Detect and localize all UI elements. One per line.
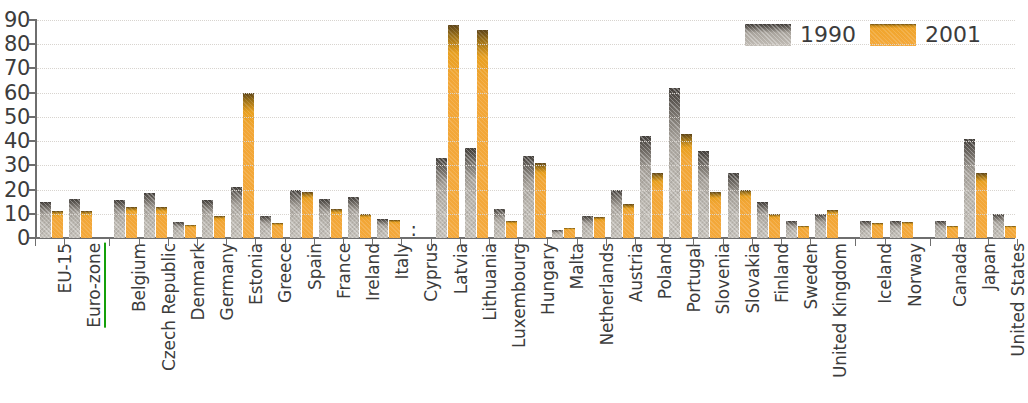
bar-2001[interactable] [360, 214, 371, 238]
bar-2001[interactable] [389, 220, 400, 238]
bar-group [890, 20, 915, 238]
y-tick-label: 20 [4, 179, 30, 200]
bar-1990[interactable] [173, 222, 184, 238]
gridline [37, 93, 1015, 94]
bar-2001[interactable] [156, 207, 167, 238]
x-tick-mark [781, 239, 782, 246]
x-category-label: Slovakia [745, 243, 762, 314]
x-tick-mark [752, 239, 753, 246]
chart-legend: 1990 2001 [745, 24, 981, 46]
x-category-label: Italy [394, 243, 411, 279]
bar-1990[interactable] [993, 214, 1004, 238]
bar-group [465, 20, 490, 238]
bar-1990[interactable] [582, 216, 593, 238]
bar-1990[interactable] [890, 221, 901, 238]
x-tick-mark [577, 239, 578, 246]
bar-1990[interactable] [69, 199, 80, 238]
bar-2001[interactable] [623, 204, 634, 238]
bar-group [494, 20, 519, 238]
bar-group [202, 20, 227, 238]
y-tick-label: 50 [4, 106, 30, 127]
bar-1990[interactable] [698, 151, 709, 238]
x-tick-mark [635, 239, 636, 246]
bar-2001[interactable] [477, 30, 488, 238]
x-tick-mark [401, 239, 402, 246]
bar-1990[interactable] [40, 202, 51, 238]
bar-1990[interactable] [786, 221, 797, 238]
x-category-label: Slovenia [715, 243, 732, 315]
x-category-label: Malta [569, 243, 586, 289]
bar-1990[interactable] [757, 202, 768, 238]
y-tick-mark [29, 19, 36, 21]
bar-2001[interactable] [872, 223, 883, 238]
bar-group [669, 20, 694, 238]
legend-item-2001[interactable]: 2001 [870, 24, 981, 46]
bar-2001[interactable] [902, 222, 913, 238]
bar-2001[interactable] [564, 228, 575, 238]
bar-2001[interactable] [769, 214, 780, 238]
bar-2001[interactable] [710, 192, 721, 238]
bar-1990[interactable] [728, 173, 739, 238]
x-tick-mark [372, 239, 373, 246]
bar-group [786, 20, 811, 238]
bar-1990[interactable] [640, 136, 651, 238]
bar-group [290, 20, 315, 238]
bar-1990[interactable] [964, 139, 975, 238]
x-category-label: Denmark [190, 243, 207, 320]
bar-2001[interactable] [185, 225, 196, 238]
bar-1990[interactable] [231, 187, 242, 238]
bar-2001[interactable] [594, 217, 605, 238]
y-tick-mark [29, 213, 36, 215]
bar-1990[interactable] [319, 199, 330, 238]
bar-2001[interactable] [448, 25, 459, 238]
bar-2001[interactable] [947, 226, 958, 238]
bar-1990[interactable] [465, 148, 476, 238]
bar-2001[interactable] [652, 173, 663, 238]
bar-1990[interactable] [260, 216, 271, 238]
bar-1990[interactable] [144, 193, 155, 238]
x-category-label: Greece [277, 243, 294, 303]
legend-item-1990[interactable]: 1990 [745, 24, 856, 46]
bar-1990[interactable] [348, 197, 359, 238]
bar-1990[interactable] [114, 200, 125, 238]
bar-1990[interactable] [815, 214, 826, 238]
bar-2001[interactable] [272, 223, 283, 238]
x-category-label: France [336, 243, 353, 299]
x-tick-mark [226, 239, 227, 246]
bar-group [757, 20, 782, 238]
bar-group [114, 20, 139, 238]
x-category-label: Austria [628, 243, 645, 302]
bar-2001[interactable] [126, 207, 137, 238]
bar-group [964, 20, 989, 238]
legend-swatch-1990-icon [745, 24, 791, 46]
bar-2001[interactable] [798, 226, 809, 238]
bar-2001[interactable] [506, 221, 517, 238]
bar-2001[interactable] [976, 173, 987, 238]
bar-2001[interactable] [302, 192, 313, 238]
bar-2001[interactable] [681, 134, 692, 238]
bar-2001[interactable] [214, 216, 225, 238]
bar-2001[interactable] [1005, 226, 1016, 238]
bar-2001[interactable] [81, 211, 92, 238]
bar-1990[interactable] [523, 156, 534, 238]
bar-1990[interactable] [202, 200, 213, 238]
bar-1990[interactable] [935, 221, 946, 238]
bar-group [144, 20, 169, 238]
bar-2001[interactable] [535, 163, 546, 238]
bar-1990[interactable] [860, 221, 871, 238]
bar-1990[interactable] [377, 219, 388, 238]
bar-1990[interactable] [669, 88, 680, 238]
x-category-label: Portugal [686, 243, 703, 313]
x-tick-mark [460, 239, 461, 246]
x-axis-category-labels: EU-15Euro-zoneBelgiumCzech RepublicDenma… [36, 243, 1019, 403]
y-tick-mark [29, 164, 36, 166]
x-category-label: Hungary [540, 243, 557, 315]
bar-1990[interactable] [436, 158, 447, 238]
y-tick-label: 40 [4, 131, 30, 152]
bar-2001[interactable] [52, 211, 63, 238]
y-tick-mark [29, 189, 36, 191]
bar-group [436, 20, 461, 238]
y-tick-label: 10 [4, 203, 30, 224]
bar-1990[interactable] [552, 230, 563, 238]
